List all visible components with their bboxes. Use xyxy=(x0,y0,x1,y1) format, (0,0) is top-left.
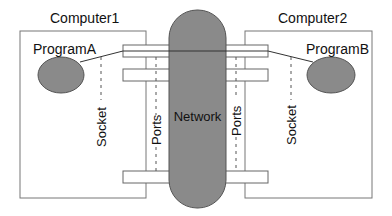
port-right-3 xyxy=(224,171,268,183)
computer2-label: Computer2 xyxy=(278,10,347,26)
computer1-label: Computer1 xyxy=(50,10,119,26)
ports-left-label: Ports xyxy=(149,114,164,145)
socket-diagram: Computer1 Computer2 Network ProgramA Pro… xyxy=(0,0,392,216)
port-left-3 xyxy=(123,171,171,183)
programA-node xyxy=(38,57,84,93)
socket-left-label: Socket xyxy=(94,107,109,147)
network-label: Network xyxy=(174,109,222,124)
port-left-2 xyxy=(123,69,171,81)
programB-node xyxy=(307,57,355,93)
socket-right-label: Socket xyxy=(284,105,299,145)
programB-label: ProgramB xyxy=(306,41,369,57)
port-right-2 xyxy=(224,69,268,81)
ports-right-label: Ports xyxy=(229,105,244,136)
programA-label: ProgramA xyxy=(33,41,97,57)
